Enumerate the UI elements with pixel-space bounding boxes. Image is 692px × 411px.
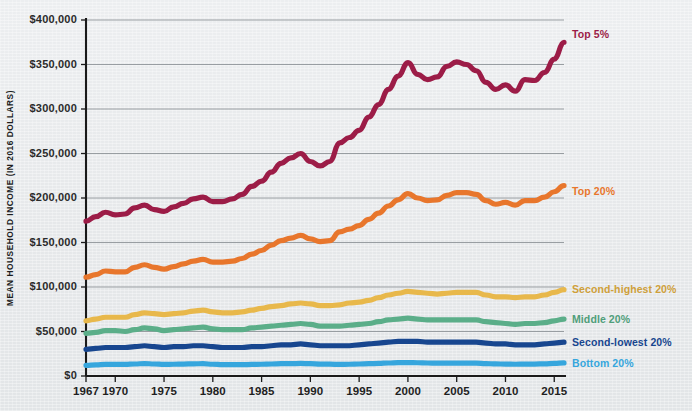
income-line-chart: $0$50,000$100,000$150,000$200,000$250,00… <box>0 0 692 411</box>
y-axis-tick-label: $0 <box>64 369 77 381</box>
y-axis-tick-label: $200,000 <box>30 191 77 203</box>
x-axis-tick-label: 2010 <box>492 385 518 397</box>
series-label-second-highest-20: Second-highest 20% <box>572 283 677 295</box>
series-line-top-20 <box>86 186 564 278</box>
y-axis-tick-label: $400,000 <box>30 13 77 25</box>
series-label-bottom-20: Bottom 20% <box>572 357 634 369</box>
series-line-middle-20 <box>86 318 564 333</box>
x-axis-tick-label: 2000 <box>395 385 421 397</box>
x-axis-tick-label: 1995 <box>346 385 372 397</box>
y-axis-tick-label: $300,000 <box>30 102 77 114</box>
x-axis-tick-label: 1985 <box>249 385 275 397</box>
x-axis-tick-label: 1967 <box>73 385 99 397</box>
y-axis-tick-label: $150,000 <box>30 236 77 248</box>
series-label-second-lowest-20: Second-lowest 20% <box>572 336 672 348</box>
y-axis-tick-label: $250,000 <box>30 147 77 159</box>
y-axis-tick-label: $100,000 <box>30 280 77 292</box>
y-axis-tick-label: $50,000 <box>36 325 77 337</box>
x-axis-tick-label: 1980 <box>200 385 226 397</box>
x-axis-tick-label: 1975 <box>151 385 177 397</box>
series-label-top-5: Top 5% <box>572 28 610 40</box>
series-line-second-lowest-20 <box>86 341 564 349</box>
series-line-top-5 <box>86 42 564 221</box>
chart-canvas: $0$50,000$100,000$150,000$200,000$250,00… <box>0 0 692 411</box>
series-line-bottom-20 <box>86 363 564 366</box>
x-axis-tick-label: 1990 <box>297 385 323 397</box>
x-axis-tick-label: 2005 <box>444 385 470 397</box>
y-axis-title: MEAN HOUSEHOLD INCOME (IN 2016 DOLLARS) <box>5 90 15 306</box>
y-axis-tick-label: $350,000 <box>30 58 77 70</box>
x-axis-tick-label: 2015 <box>541 385 567 397</box>
series-line-second-highest-20 <box>86 290 564 321</box>
x-axis-tick-label: 1970 <box>102 385 128 397</box>
series-label-top-20: Top 20% <box>572 185 616 197</box>
series-label-middle-20: Middle 20% <box>572 313 631 325</box>
